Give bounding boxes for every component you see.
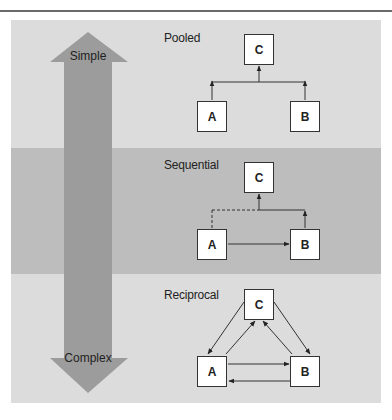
complexity-arrow-icon xyxy=(50,32,128,393)
pooled-node-b: B xyxy=(290,101,320,132)
sequential-title: Sequential xyxy=(164,158,219,172)
reciprocal-node-c: C xyxy=(244,289,274,320)
complex-label: Complex xyxy=(48,351,128,365)
simple-label: Simple xyxy=(48,49,128,63)
pooled-title: Pooled xyxy=(164,31,200,45)
pooled-connectors xyxy=(212,66,305,100)
pooled-node-c: C xyxy=(244,34,274,65)
pooled-node-a: A xyxy=(197,101,227,132)
reciprocal-node-a: A xyxy=(197,356,227,387)
reciprocal-node-b: B xyxy=(290,356,320,387)
sequential-node-a: A xyxy=(197,229,227,260)
reciprocal-title: Reciprocal xyxy=(164,288,219,302)
sequential-node-c: C xyxy=(244,162,274,193)
sequential-node-b: B xyxy=(290,229,320,260)
